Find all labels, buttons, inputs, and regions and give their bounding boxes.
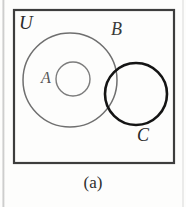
universe-rectangle	[14, 10, 174, 163]
set-b-circle	[23, 33, 117, 127]
set-a-circle	[56, 62, 90, 96]
set-a-label: A	[41, 70, 51, 86]
universe-label: U	[19, 13, 33, 32]
venn-diagram-figure: U B A C (a)	[0, 0, 186, 207]
set-c-label: C	[137, 126, 149, 144]
figure-caption: (a)	[0, 174, 186, 191]
set-b-label: B	[111, 20, 122, 38]
